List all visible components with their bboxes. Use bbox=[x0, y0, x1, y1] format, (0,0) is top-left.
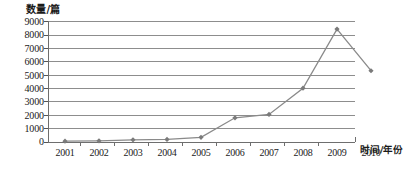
series-markers bbox=[62, 26, 373, 143]
data-point bbox=[198, 135, 203, 140]
data-point bbox=[62, 139, 67, 144]
data-point bbox=[232, 115, 237, 120]
series-line bbox=[65, 29, 371, 141]
data-point bbox=[96, 138, 101, 143]
data-point bbox=[164, 137, 169, 142]
data-point bbox=[130, 137, 135, 142]
